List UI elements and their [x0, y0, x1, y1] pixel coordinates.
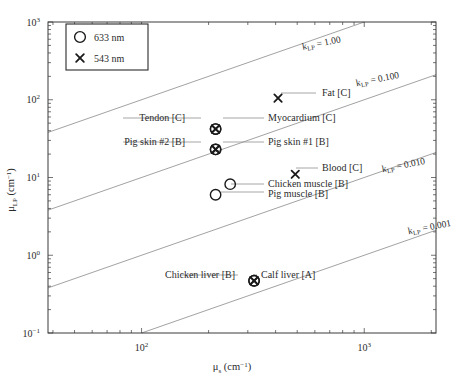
data-point-label: Myocardium [C] [268, 112, 336, 123]
data-point-label: Chicken liver [B] [165, 269, 235, 280]
scatter-plot: 10210310−1100101102103 Fat [C]Tendon [C]… [0, 0, 472, 382]
data-point-label: Fat [C] [322, 87, 351, 98]
legend: 633 nm543 nm [66, 24, 148, 70]
data-point-label: Pig skin #2 [B] [124, 136, 185, 147]
data-point-label: Pig muscle [B] [268, 188, 328, 199]
data-point-label: Tendon [C] [139, 112, 185, 123]
chart-figure: 10210310−1100101102103 Fat [C]Tendon [C]… [0, 0, 472, 382]
data-point-label: Calf liver [A] [261, 269, 315, 280]
data-point-label: Pig skin #1 [B] [268, 136, 329, 147]
legend-label-1: 543 nm [94, 53, 125, 64]
data-point-label: Blood [C] [322, 162, 362, 173]
legend-label-0: 633 nm [94, 32, 125, 43]
